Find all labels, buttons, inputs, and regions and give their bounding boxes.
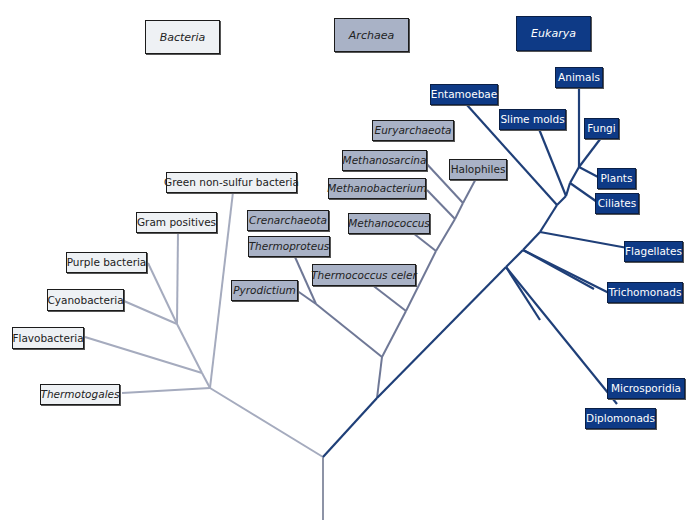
- node-cyanobacteria: Cyanobacteria: [47, 289, 124, 311]
- node-euryarchaeota: Euryarchaeota: [372, 120, 454, 141]
- node-trichomonads: Trichomonads: [607, 282, 683, 303]
- node-plants: Plants: [597, 168, 636, 189]
- node-animals: Animals: [555, 67, 603, 88]
- node-gram-positives: Gram positives: [136, 212, 217, 233]
- domain-header-eukarya: Eukarya: [516, 16, 591, 51]
- node-thermoproteus: Thermoproteus: [248, 236, 330, 257]
- node-entamoebae: Entamoebae: [430, 84, 498, 105]
- node-thermococcus-celer: Thermococcus celer: [312, 264, 416, 286]
- node-pyrodictium: Pyrodictium: [231, 280, 298, 301]
- node-flagellates: Flagellates: [624, 241, 683, 262]
- node-purple-bacteria: Purple bacteria: [66, 252, 147, 273]
- node-flavobacteria: Flavobacteria: [12, 327, 84, 349]
- node-fungi: Fungi: [584, 118, 619, 139]
- domain-header-bacteria: Bacteria: [145, 20, 220, 54]
- node-crenarchaeota: Crenarchaeota: [247, 210, 329, 231]
- node-ciliates: Ciliates: [595, 193, 639, 214]
- node-methanococcus: Methanococcus: [348, 213, 430, 234]
- node-thermotogales: Thermotogales: [40, 384, 120, 405]
- node-slime-molds: Slime molds: [499, 109, 566, 130]
- domain-header-archaea: Archaea: [334, 18, 409, 52]
- node-halophiles: Halophiles: [449, 159, 507, 180]
- node-green-non-sulfur-bacteria: Green non-sulfur bacteria: [166, 172, 297, 193]
- node-methanobacterium: Methanobacterium: [328, 178, 426, 199]
- node-microsporidia: Microsporidia: [607, 378, 685, 399]
- node-methanosarcina: Methanosarcina: [342, 150, 427, 171]
- node-diplomonads: Diplomonads: [585, 408, 656, 429]
